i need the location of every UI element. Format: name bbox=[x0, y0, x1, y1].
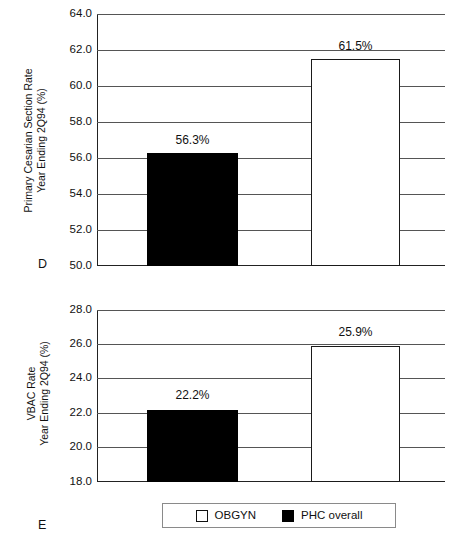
panel-d-plot-area: 56.3% 61.5% bbox=[97, 14, 445, 266]
panel-e-y-tick-labels: 28.0 26.0 24.0 22.0 20.0 18.0 bbox=[48, 295, 92, 495]
panel-d-ytick-54: 54.0 bbox=[70, 188, 92, 200]
legend-item-obgyn[interactable]: OBGYN bbox=[196, 510, 257, 522]
panel-e-bar-label-obgyn: 25.9% bbox=[311, 326, 400, 338]
panel-e-plot-area: 22.2% 25.9% bbox=[97, 310, 445, 482]
panel-e-ytick-26: 26.0 bbox=[70, 338, 92, 350]
panel-d-y-tick-labels: 64.0 62.0 60.0 58.0 56.0 54.0 52.0 50.0 bbox=[48, 0, 92, 280]
panel-e-gridline-26 bbox=[97, 344, 445, 345]
legend-swatch-phc-overall-icon bbox=[282, 510, 294, 522]
panel-d-gridline-64 bbox=[97, 14, 445, 15]
panel-d-bar-label-phc-overall: 56.3% bbox=[147, 134, 238, 146]
panel-e-bar-label-phc-overall: 22.2% bbox=[147, 389, 238, 401]
panel-e-ytick-28: 28.0 bbox=[70, 304, 92, 316]
legend-item-phc-overall[interactable]: PHC overall bbox=[282, 510, 362, 522]
panel-e-ytick-20: 20.0 bbox=[70, 441, 92, 453]
panel-d-ytick-60: 60.0 bbox=[70, 80, 92, 92]
panel-e-gridline-28 bbox=[97, 310, 445, 311]
legend-swatch-obgyn-icon bbox=[196, 510, 208, 522]
panel-d-y-axis-title-line2: Year Ending 2Q94 (%) bbox=[34, 41, 47, 241]
panel-e-ytick-24: 24.0 bbox=[70, 372, 92, 384]
panel-d-bar-phc-overall[interactable] bbox=[147, 153, 238, 266]
panel-e-ytick-18: 18.0 bbox=[70, 476, 92, 488]
panel-d-ytick-56: 56.0 bbox=[70, 152, 92, 164]
panel-d-ytick-64: 64.0 bbox=[70, 8, 92, 20]
panel-e-ytick-22: 22.0 bbox=[70, 407, 92, 419]
panel-d-bar-label-obgyn: 61.5% bbox=[311, 40, 400, 52]
panel-e-bar-phc-overall[interactable] bbox=[147, 410, 238, 482]
legend-label-obgyn: OBGYN bbox=[215, 510, 257, 522]
figure-panels-d-e: D Primary Cesarian Section Rate Year End… bbox=[0, 0, 457, 552]
panel-e-y-axis-title-line1: VBAC Rate bbox=[25, 324, 38, 464]
panel-d-ytick-52: 52.0 bbox=[70, 224, 92, 236]
panel-e-y-axis-title: VBAC Rate Year Ending 2Q94 (%) bbox=[25, 324, 50, 464]
panel-d-ytick-62: 62.0 bbox=[70, 44, 92, 56]
panel-d-y-axis-title: Primary Cesarian Section Rate Year Endin… bbox=[22, 41, 47, 241]
panel-d-bar-obgyn[interactable] bbox=[311, 59, 400, 266]
panel-e: E VBAC Rate Year Ending 2Q94 (%) 28.0 26… bbox=[0, 295, 457, 495]
legend-label-phc-overall: PHC overall bbox=[301, 510, 362, 522]
panel-d-y-axis-spine bbox=[97, 14, 98, 266]
panel-e-bar-obgyn[interactable] bbox=[311, 346, 400, 482]
panel-d-ytick-50: 50.0 bbox=[70, 260, 92, 272]
chart-legend: OBGYN PHC overall bbox=[162, 503, 396, 528]
panel-e-y-axis-spine bbox=[97, 310, 98, 482]
panel-d-letter: D bbox=[38, 258, 47, 271]
panel-d: D Primary Cesarian Section Rate Year End… bbox=[0, 0, 457, 280]
panel-e-letter: E bbox=[38, 519, 46, 532]
panel-d-ytick-58: 58.0 bbox=[70, 116, 92, 128]
panel-d-y-axis-title-line1: Primary Cesarian Section Rate bbox=[22, 41, 35, 241]
